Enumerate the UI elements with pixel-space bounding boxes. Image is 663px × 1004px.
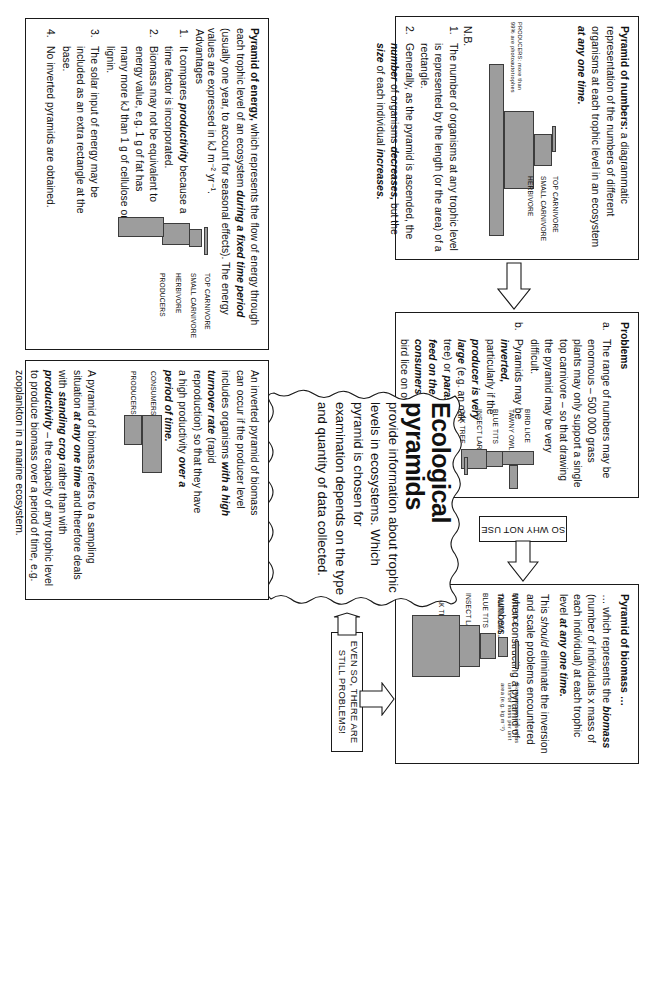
numbers-bar-top-carnivore [552,126,556,152]
txt-em: biomass [601,706,612,748]
pyramid-of-numbers-diagram: TOP CARNIVORE SMALL CARNIVORE HERBIVORE … [476,26,580,252]
ecological-pyramids-cloud: Ecological pyramids provide information … [259,388,467,610]
txt-em: at any one time. [558,618,569,697]
so-why-not-use-label: SO WHY NOT USE [481,523,565,535]
energy-label-top-carnivore: TOP CARNIVORE [203,273,212,330]
cloud-text: Ecological pyramids provide information … [269,402,453,596]
txt: rather than with [57,460,68,535]
list-item: 1. The number of organisms at any trophi… [417,26,460,252]
inverted-biomass-diagram: CONSUMERS PRODUCERS [110,371,164,521]
pyramid-of-biomass-diagram: BIRD LICE TAWNY OWL BLUE TITS INSECT LAR… [402,593,522,759]
txt: This [539,594,550,617]
energy-bar-herbivore [162,223,190,245]
inverted-biomass-para1: An inverted pyramid of biomass can occur… [160,370,261,518]
list-item: 4. No inverted pyramids are obtained. [43,29,57,219]
biomass-label-tawny-owl: TAWNY OWL [496,593,505,635]
txt-em: productivity [43,370,54,429]
biomass-bar-oak-tree [412,615,460,677]
biomass-units-note: Biomass expressed as units of mass per u… [499,683,520,747]
list-text: Generally, as the pyramid is ascended, t… [375,43,415,239]
list-marker: a. [598,322,612,331]
biomass-bar-bird-lice [515,641,519,669]
txt-em: inverted, [499,339,510,382]
txt-em: increases. [375,149,386,200]
txt-em: number [389,43,400,81]
pyramid-of-energy-intro: Pyramid of energy, which represents the … [204,28,261,340]
problems-label-blue-tits: BLUE TITS [491,409,500,444]
inverted-biomass-box: An inverted pyramid of biomass can occur… [25,360,269,600]
inverted-biomass-para2: A pyramid of biomass refers to a samplin… [12,370,98,592]
problems-label-tawny-owl: TAWNY OWL [507,409,516,451]
pyramid-of-numbers-intro: Pyramid of numbers: a diagrammatic repre… [574,26,631,250]
diagram-canvas: Pyramid of numbers: a diagrammatic repre… [0,0,663,1004]
page-rotation-wrapper: Pyramid of numbers: a diagrammatic repre… [0,0,663,1004]
numbers-label-producers-note: PRODUCERS: more than 99% are photoautotr… [509,22,523,100]
inverted-label-producers: PRODUCERS [129,371,138,415]
list-text: The number of organisms at any trophic l… [419,43,459,252]
pyramid-of-biomass-heading: Pyramid of biomass … [619,594,630,706]
list-text: The solar input of energy may be include… [61,46,101,214]
txt-em: size [375,43,386,63]
txt: but the [389,200,400,235]
cloud-body: provide information about trophic levels… [315,402,401,595]
numbers-label-top-carnivore: TOP CARNIVORE [551,176,560,233]
numbers-label-herbivore: HERBIVORE [526,176,535,217]
txt-em: should [539,617,550,648]
list-marker: 1. [445,26,459,35]
txt-em: productivity [178,103,189,162]
txt: Pyramids may be [513,339,524,419]
list-text: The range of numbers may be enormous – 5… [529,339,612,487]
list-marker: 1. [175,29,189,38]
advantages-list: 1. It compares productivity because a ti… [43,29,190,219]
txt: … which represents the [601,594,612,706]
cloud-heading-line1: Ecological [428,402,454,596]
pyramid-of-energy-box: Pyramid of energy, which represents the … [25,18,269,350]
list-marker: b. [511,322,525,331]
list-item: 1. It compares productivity because a ti… [161,29,190,219]
advantages-label: Advantages [192,29,206,219]
pyramid-of-numbers-box: Pyramid of numbers: a diagrammatic repre… [395,16,639,260]
biomass-bar-insect-larvae [458,625,480,667]
txt-em: standing crop [57,391,68,460]
arrow-biomass-to-inverted [359,682,395,716]
problems-heading: Problems [619,322,630,369]
pyramid-of-biomass-lead: … which represents the biomass (number o… [555,594,612,754]
energy-label-small-carnivore: SMALL CARNIVORE [189,273,198,338]
txt: of each individual [375,63,386,149]
txt-em: at any one time [72,412,83,488]
pyramid-of-numbers-nb-label: N.B. [460,26,474,252]
numbers-bar-producers [489,64,504,236]
inverted-bar-producers [124,415,142,445]
problems-label-bird-lice: BIRD LICE [523,409,532,443]
problems-bar-tawny-owl [509,465,518,489]
cloud-heading-line2: pyramids [402,402,428,596]
pyramid-of-biomass-box: Pyramid of biomass … … which represents … [395,584,639,764]
arrow-numbers-to-problems [497,262,531,310]
txt: It compares [178,46,189,103]
pyramid-of-numbers-heading: Pyramid of numbers: [619,26,630,130]
txt-em: decreases, [389,146,400,200]
list-marker: 2. [146,29,160,38]
arrow-problems-to-biomass [507,540,539,582]
biomass-bar-blue-tits [480,633,496,659]
list-marker: 4. [43,29,57,38]
list-item: 2. Biomass may not be equivalent to ener… [102,29,159,219]
inverted-bar-consumers [142,415,162,473]
energy-bar-producers [118,217,164,237]
txt: particularly if the [485,339,496,415]
numbers-label-small-carnivore: SMALL CARNIVORE [539,176,548,241]
so-why-not-use-caption: SO WHY NOT USE [479,516,567,542]
energy-label-herbivore: HERBIVORE [174,273,183,314]
txt-em: during a fixed time period [235,190,246,317]
list-marker: 2. [401,26,415,35]
pyramid-of-numbers-notes: 1. The number of organisms at any trophi… [372,26,459,252]
list-item: 3. The solar input of energy may be incl… [58,29,101,219]
biomass-label-blue-tits: BLUE TITS [481,593,490,628]
list-marker: 3. [87,29,101,38]
pyramid-of-energy-heading: Pyramid of energy, [249,28,260,121]
list-text: Biomass may not be equivalent to energy … [105,46,159,219]
even-so-label: EVEN SO, THERE ARE STILL PROBLEMS! [335,633,358,751]
list-text: It compares productivity because a time … [163,46,188,213]
txt: Generally, as the pyramid is ascended, t… [404,43,415,239]
list-item: 2. Generally, as the pyramid is ascended… [372,26,415,252]
